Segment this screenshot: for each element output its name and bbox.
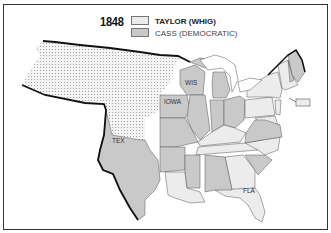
label-texas: TEX (112, 137, 125, 144)
label-iowa: IOWA (164, 98, 182, 105)
legend-swatch-whig (131, 16, 149, 25)
map-legend: 1848 TAYLOR (WHIG) CASS (DEMOCRATIC) (0, 0, 331, 40)
label-florida: FLA (243, 187, 256, 194)
state-arkansas (160, 147, 185, 172)
great-lakes (200, 55, 262, 92)
legend-label-democratic: CASS (DEMOCRATIC) (155, 29, 238, 38)
label-wisconsin: WIS (185, 79, 198, 86)
state-mississippi (185, 155, 200, 188)
legend-label-whig: TAYLOR (WHIG) (155, 17, 216, 26)
state-pennsylvania (245, 97, 275, 118)
state-florida (215, 188, 265, 222)
state-new-jersey (275, 100, 281, 115)
legend-swatch-democratic (131, 28, 149, 37)
callout-pointer (289, 98, 296, 102)
state-ohio (224, 96, 245, 128)
election-year: 1848 (100, 14, 124, 29)
state-michigan (212, 72, 230, 98)
rhode-island-callout (296, 99, 310, 106)
